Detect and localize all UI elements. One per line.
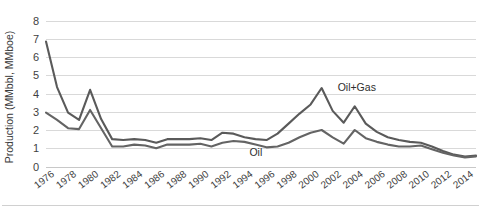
x-tick-label: 2014 (451, 168, 476, 190)
series-label-oil-gas: Oil+Gas (338, 81, 376, 93)
x-tick-label: 1998 (274, 168, 299, 190)
x-tick-label: 1996 (252, 168, 277, 190)
y-tick-label: 2 (33, 124, 39, 136)
x-tick-label: 1980 (76, 168, 101, 190)
x-tick-label: 2006 (363, 168, 388, 190)
y-tick-label: 5 (33, 69, 39, 81)
y-tick-label: 6 (33, 51, 39, 63)
x-tick-label: 1994 (230, 168, 255, 190)
series-line-oil-gas (46, 41, 476, 156)
x-tick-label: 1978 (54, 168, 79, 190)
x-tick-label: 2002 (318, 168, 343, 190)
x-tick-label: 1990 (186, 168, 211, 190)
data-series (46, 41, 476, 157)
series-label-oil: Oil (249, 146, 262, 158)
y-tick-label: 3 (33, 106, 39, 118)
x-tick-label: 1988 (164, 168, 189, 190)
x-tick-label: 2008 (385, 168, 410, 190)
y-tick-label: 0 (33, 161, 39, 173)
x-tick-label: 2004 (341, 168, 366, 190)
x-tick-label: 2010 (407, 168, 432, 190)
x-axis-tick-labels: 1976197819801982198419861988199019921994… (32, 168, 476, 190)
y-tick-label: 8 (33, 15, 39, 27)
y-tick-label: 4 (33, 88, 39, 100)
y-tick-label: 7 (33, 33, 39, 45)
production-line-chart: 012345678 197619781980198219841986198819… (0, 0, 481, 209)
y-axis-tick-labels: 012345678 (33, 15, 39, 173)
x-tick-label: 1982 (98, 168, 123, 190)
x-tick-label: 1984 (120, 168, 145, 190)
x-tick-label: 2000 (296, 168, 321, 190)
chart-canvas: 012345678 197619781980198219841986198819… (0, 0, 481, 209)
x-tick-label: 1986 (142, 168, 167, 190)
x-tick-label: 2012 (429, 168, 454, 190)
x-tick-label: 1992 (208, 168, 233, 190)
y-axis-title: Production (MMbbl, MMboe) (3, 31, 15, 163)
y-tick-label: 1 (33, 142, 39, 154)
